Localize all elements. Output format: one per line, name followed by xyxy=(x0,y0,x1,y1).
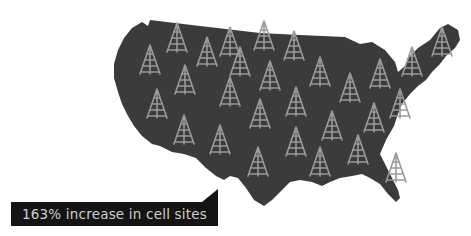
us-map xyxy=(0,0,471,236)
caption-corner-flag xyxy=(202,189,218,202)
caption-text: 163% increase in cell sites xyxy=(11,202,218,226)
